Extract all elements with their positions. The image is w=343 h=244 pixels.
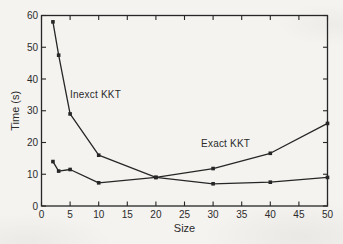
- plot-frame: [42, 16, 328, 207]
- data-point-marker-exact-kkt: [68, 168, 72, 172]
- line-chart-figure: 051015202530354045500102030405060Inexct …: [0, 0, 343, 244]
- data-point-marker-inexct-kkt: [51, 20, 55, 24]
- data-point-marker-inexct-kkt: [269, 180, 273, 184]
- chart-svg: 051015202530354045500102030405060Inexct …: [0, 0, 343, 244]
- series-line-inexct-kkt: [53, 22, 328, 184]
- y-tick-label: 50: [27, 42, 39, 53]
- x-tick-label: 0: [39, 209, 45, 220]
- x-tick-label: 25: [179, 209, 191, 220]
- y-tick-label: 40: [27, 74, 39, 85]
- y-tick-label: 10: [27, 169, 39, 180]
- x-tick-label: 15: [122, 209, 134, 220]
- plot-area: 051015202530354045500102030405060Inexct …: [27, 10, 334, 220]
- data-point-marker-inexct-kkt: [97, 153, 101, 157]
- data-point-marker-exact-kkt: [51, 160, 55, 164]
- series-label-inexct-kkt: Inexct KKT: [70, 89, 121, 100]
- data-point-marker-exact-kkt: [97, 181, 101, 185]
- data-point-marker-exact-kkt: [154, 176, 158, 180]
- data-point-marker-exact-kkt: [211, 167, 215, 171]
- x-tick-label: 5: [67, 209, 73, 220]
- data-point-marker-inexct-kkt: [326, 176, 330, 180]
- y-tick-label: 20: [27, 137, 39, 148]
- x-tick-label: 30: [208, 209, 220, 220]
- x-tick-label: 50: [322, 209, 334, 220]
- data-point-marker-inexct-kkt: [211, 182, 215, 186]
- y-axis-label: Time (s): [9, 91, 21, 131]
- data-point-marker-inexct-kkt: [68, 112, 72, 116]
- series-line-exact-kkt: [53, 123, 328, 182]
- data-point-marker-inexct-kkt: [57, 53, 61, 57]
- x-tick-label: 45: [293, 209, 305, 220]
- x-tick-label: 35: [236, 209, 248, 220]
- x-tick-label: 10: [93, 209, 105, 220]
- x-axis-label: Size: [174, 222, 195, 234]
- y-tick-label: 60: [27, 10, 39, 21]
- y-tick-label: 0: [32, 201, 38, 212]
- series-label-exact-kkt: Exact KKT: [201, 138, 250, 149]
- data-point-marker-exact-kkt: [326, 122, 330, 126]
- y-tick-label: 30: [27, 105, 39, 116]
- x-tick-label: 20: [150, 209, 162, 220]
- x-tick-label: 40: [265, 209, 277, 220]
- data-point-marker-exact-kkt: [57, 169, 61, 173]
- data-point-marker-exact-kkt: [269, 151, 273, 155]
